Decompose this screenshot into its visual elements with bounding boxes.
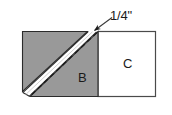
dimension-label: 1/4" — [110, 9, 132, 22]
piece-b-label: B — [78, 71, 87, 84]
piece-c-label: C — [123, 57, 132, 70]
figure-root: 1/4" B C — [0, 0, 172, 115]
seam-allowance-diagram — [0, 0, 172, 115]
